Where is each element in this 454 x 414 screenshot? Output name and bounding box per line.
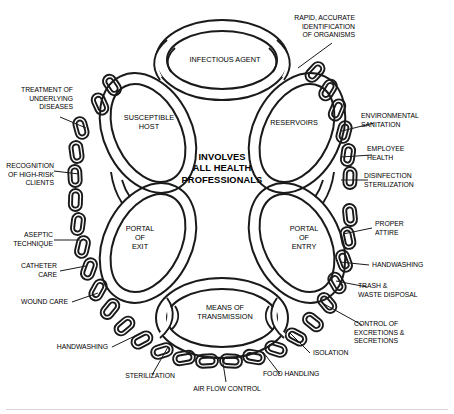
label-trash-waste-disposal: TRASH & WASTE DISPOSAL bbox=[358, 282, 449, 299]
chain-link bbox=[72, 116, 90, 141]
chain-link bbox=[283, 326, 309, 348]
center-caption: INVOLVES ALL HEALTH PROFESSIONALS bbox=[167, 152, 277, 186]
label-handwashing-bottom: HANDWASHING bbox=[19, 343, 108, 352]
chain-link bbox=[317, 77, 340, 103]
chain-link bbox=[342, 203, 357, 226]
label-food-handling: FOOD HANDLING bbox=[263, 370, 345, 379]
label-employee-health: EMPLOYEE HEALTH bbox=[367, 145, 449, 162]
label-handwashing-right: HANDWASHING bbox=[372, 261, 450, 270]
label-wound-care: WOUND CARE bbox=[0, 298, 68, 307]
label-recognition-of-high-risk-clients: RECOGNITION OF HIGH-RISK CLIENTS bbox=[0, 162, 54, 188]
label-environmental-sanitation: ENVIRONMENTAL SANITATION bbox=[361, 112, 448, 129]
ring-label-susceptible-host: SUSCEPTIBLE HOST bbox=[113, 113, 184, 131]
label-catheter-care: CATHETER CARE bbox=[0, 262, 57, 279]
chain-link bbox=[242, 349, 266, 366]
label-disinfection-sterilization: DISINFECTION STERILIZATION bbox=[364, 172, 450, 189]
chain-link bbox=[112, 314, 137, 338]
label-air-flow-control: AIR FLOW CONTROL bbox=[179, 385, 276, 394]
chain-link bbox=[69, 140, 85, 164]
ring-label-reservoirs: RESERVOIRS bbox=[259, 118, 328, 127]
chain-link bbox=[74, 235, 92, 259]
ring-label-infectious-agent: INFECTIOUS AGENT bbox=[180, 55, 270, 64]
chain-link bbox=[340, 143, 356, 167]
label-isolation: ISOLATION bbox=[313, 349, 370, 358]
chain-link bbox=[98, 296, 122, 321]
chain-link bbox=[129, 329, 155, 351]
ring-label-portal-of-entry: PORTAL OF ENTRY bbox=[282, 224, 326, 252]
label-rapid-accurate-identification: RAPID, ACCURATE IDENTIFICATION OF ORGANI… bbox=[241, 14, 355, 40]
chain-link bbox=[68, 165, 82, 188]
chain-link bbox=[70, 212, 86, 235]
label-proper-attire: PROPER ATTIRE bbox=[375, 220, 442, 237]
chain-link bbox=[343, 167, 357, 189]
chain-of-infection-diagram: .ring { fill:none; stroke:#1a1a1a; strok… bbox=[0, 0, 454, 414]
ring-label-means-of-transmission: MEANS OF TRANSMISSION bbox=[188, 303, 263, 321]
chain-link bbox=[300, 310, 325, 334]
bottom-rule bbox=[6, 409, 448, 410]
chain-link bbox=[172, 350, 196, 367]
label-aseptic-technique: ASEPTIC TECHNIQUE bbox=[0, 231, 53, 248]
ring-label-portal-of-exit: PORTAL OF EXIT bbox=[118, 224, 162, 252]
label-treatment-of-underlying-diseases: TREATMENT OF UNDERLYING DISEASES bbox=[0, 86, 73, 112]
label-sterilization: STERILIZATION bbox=[106, 372, 193, 381]
chain-link bbox=[79, 256, 99, 281]
chain-link bbox=[69, 189, 83, 211]
label-control-of-excretions: CONTROL OF EXCRETIONS & SECRETIONS bbox=[354, 320, 449, 346]
chain-link bbox=[315, 290, 339, 315]
chain-link bbox=[303, 59, 327, 84]
chain-link bbox=[87, 277, 109, 303]
